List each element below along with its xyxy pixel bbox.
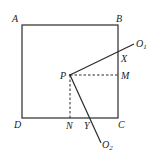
label-a: A <box>11 13 19 24</box>
label-o1-sub: 1 <box>143 43 147 51</box>
point-p-marker <box>69 74 71 76</box>
label-o2-sub: 2 <box>109 144 113 152</box>
ray-p-o2 <box>70 75 101 143</box>
label-c: C <box>118 119 125 130</box>
geometry-diagram: A B C D P M N X Y O1 O2 <box>0 0 152 164</box>
label-o2-main: O <box>102 139 109 150</box>
label-p: P <box>59 70 66 81</box>
label-b: B <box>116 13 122 24</box>
label-o1-main: O <box>136 38 143 49</box>
label-o2: O2 <box>102 139 113 152</box>
label-d: D <box>13 119 22 130</box>
label-x: X <box>120 53 128 64</box>
label-m: M <box>120 70 130 81</box>
label-y: Y <box>84 120 91 131</box>
label-n: N <box>65 120 74 131</box>
label-o1: O1 <box>136 38 147 51</box>
